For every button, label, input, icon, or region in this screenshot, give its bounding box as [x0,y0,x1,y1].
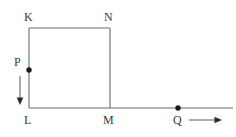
q-velocity-arrow [189,117,222,123]
point-p-dot [26,67,31,72]
point-q-dot [175,105,180,110]
vertex-label-p: P [14,56,21,68]
p-velocity-arrow [17,76,24,105]
geometry-figure: K N P L M Q [0,0,236,137]
vertex-label-m: M [103,114,114,126]
vertex-label-k: K [24,11,33,23]
vertex-label-n: N [104,11,113,23]
figure-canvas [0,0,236,137]
vertex-label-l: L [24,114,31,126]
vertex-label-q: Q [173,114,182,126]
